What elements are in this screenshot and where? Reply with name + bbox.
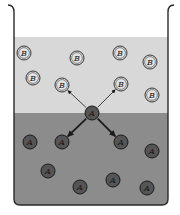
- particle-b: B: [145, 88, 159, 102]
- particle-b-label: B: [58, 81, 65, 90]
- particle-b: B: [113, 46, 127, 60]
- particle-a-label: A: [148, 147, 155, 156]
- particle-a-label: A: [58, 138, 65, 147]
- particle-b: B: [17, 46, 31, 60]
- particle-b-label: B: [146, 58, 153, 67]
- particle-a-label: A: [143, 184, 150, 193]
- particle-a-label: A: [44, 167, 51, 176]
- particle-a: A: [23, 135, 37, 149]
- particle-b: B: [143, 55, 157, 69]
- particle-a: A: [41, 164, 55, 178]
- particle-a-label: A: [117, 138, 124, 147]
- particle-a-label: A: [109, 176, 116, 185]
- particle-b-label: B: [116, 49, 123, 58]
- particle-a: A: [145, 144, 159, 158]
- particle-a-label: A: [88, 109, 95, 118]
- center-particle-group: A: [85, 106, 99, 120]
- particle-a: A: [140, 181, 154, 195]
- particle-a: A: [73, 180, 87, 194]
- particle-b-label: B: [29, 74, 36, 83]
- particle-a: A: [114, 135, 128, 149]
- particle-b-label: B: [117, 80, 124, 89]
- particle-a-label: A: [26, 138, 33, 147]
- diffusion-diagram: BBBBBBBB AAAAAAAA A: [0, 0, 180, 215]
- particle-b: B: [26, 71, 40, 85]
- particle-a-label: A: [76, 183, 83, 192]
- particle-b: B: [55, 78, 69, 92]
- particle-b-label: B: [148, 91, 155, 100]
- particle-a: A: [106, 173, 120, 187]
- particle-a: A: [55, 135, 69, 149]
- particle-a: A: [85, 106, 99, 120]
- particle-b: B: [70, 51, 84, 65]
- particle-b: B: [114, 77, 128, 91]
- particle-b-label: B: [20, 49, 27, 58]
- particle-b-label: B: [73, 54, 80, 63]
